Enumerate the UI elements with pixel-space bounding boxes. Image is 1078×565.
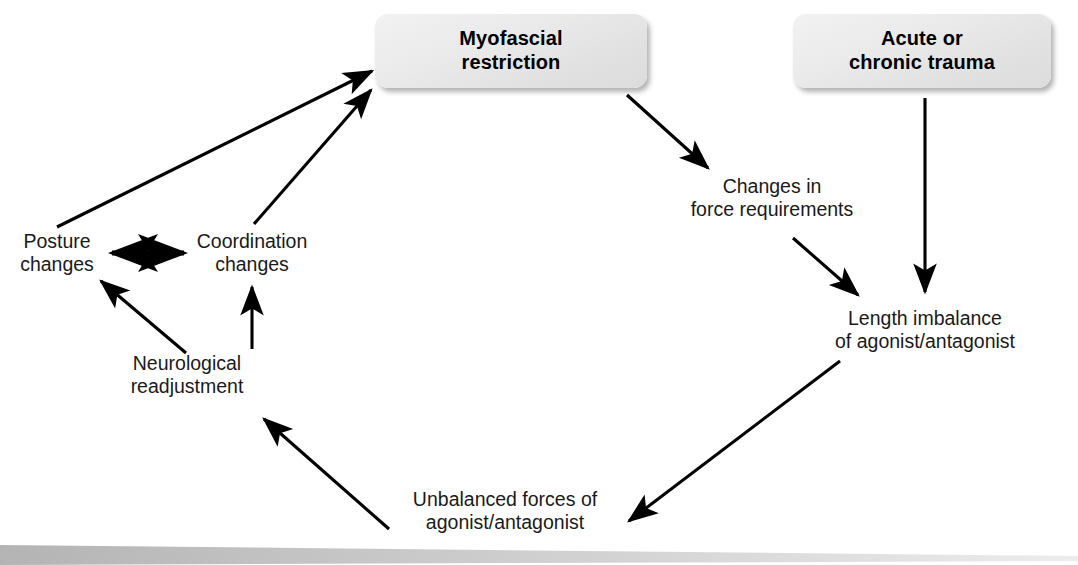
node-label-line1: Neurological [131,352,244,375]
node-label-line2: of agonist/antagonist [835,330,1015,353]
node-label-line1: Posture [20,230,94,253]
node-label-coordination-changes: Coordination changes [197,230,308,277]
node-box-line1: Acute or [849,27,995,51]
node-label-line1: Unbalanced forces of [413,488,597,511]
node-label-changes-in-force-requirements: Changes in force requirements [691,175,854,222]
node-label-length-imbalance: Length imbalance of agonist/antagonist [835,307,1015,354]
node-label-line2: readjustment [131,375,244,398]
arrow-force-requirements-to-length-imbalance [793,238,858,295]
arrow-neurological-to-posture [101,281,186,353]
node-box-line1: Myofascial [459,27,562,51]
node-label-line1: Length imbalance [835,307,1015,330]
node-label-neurological-readjustment: Neurological readjustment [131,352,244,399]
node-label-line2: agonist/antagonist [413,511,597,534]
arrow-posture-to-myofascial [57,71,372,227]
node-label-posture-changes: Posture changes [20,230,94,277]
node-label-line2: changes [197,253,308,276]
node-box-line2: chronic trauma [849,51,995,75]
node-box-myofascial-restriction[interactable]: Myofascial restriction [375,14,647,88]
arrow-myofascial-to-force-requirements [627,95,708,168]
arrow-unbalanced-forces-to-neurological [264,419,389,529]
diagram-canvas: Myofascial restriction Acute or chronic … [0,0,1078,565]
node-label-line2: force requirements [691,198,854,221]
arrow-coordination-to-myofascial [254,90,371,224]
node-label-line1: Changes in [691,175,854,198]
node-label-line1: Coordination [197,230,308,253]
node-label-unbalanced-forces: Unbalanced forces of agonist/antagonist [413,488,597,535]
node-box-line2: restriction [459,51,562,75]
arrow-length-imbalance-to-unbalanced-forces [629,361,840,521]
node-label-line2: changes [20,253,94,276]
node-box-acute-or-chronic-trauma[interactable]: Acute or chronic trauma [793,14,1051,88]
